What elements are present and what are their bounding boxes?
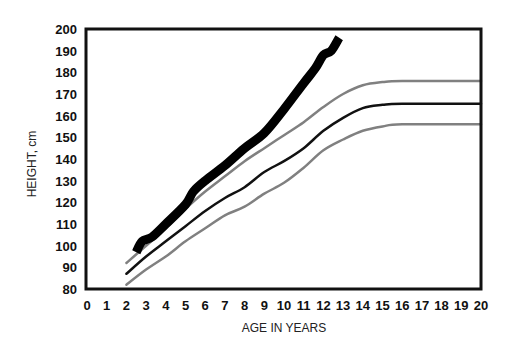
y-tick-label: 80 [63,282,77,297]
series-lines [126,38,481,285]
y-tick-label: 180 [55,65,77,80]
x-tick-label: 20 [474,298,488,313]
x-tick-label: 18 [434,298,448,313]
y-tick-label: 160 [55,109,77,124]
x-tick-label: 0 [83,298,90,313]
x-tick-label: 1 [103,298,110,313]
y-tick-label: 110 [56,217,77,232]
y-tick-label: 120 [55,195,77,210]
series-line-1 [126,104,481,274]
growth-chart: 8090100110120130140150160170180190200 01… [0,0,506,353]
x-tick-label: 5 [182,298,189,313]
y-tick-label: 190 [55,44,77,59]
x-tick-label: 19 [454,298,468,313]
x-tick-label: 9 [261,298,268,313]
y-tick-label: 150 [55,130,77,145]
y-tick-label: 90 [63,260,77,275]
y-tick-label: 130 [55,174,77,189]
plot-frame [86,29,481,289]
series-line-0 [126,81,481,263]
x-tick-label: 7 [221,298,228,313]
x-tick-label: 3 [142,298,149,313]
y-tick-label: 140 [55,152,77,167]
x-tick-label: 4 [162,298,170,313]
x-tick-label: 16 [395,298,409,313]
x-tick-label: 6 [202,298,209,313]
x-tick-label: 11 [297,298,311,313]
y-axis-ticks: 8090100110120130140150160170180190200 [55,22,77,297]
y-tick-label: 170 [55,87,77,102]
x-tick-label: 17 [415,298,429,313]
x-tick-label: 8 [241,298,248,313]
x-tick-label: 14 [356,298,371,313]
x-tick-label: 12 [316,298,330,313]
x-tick-label: 10 [277,298,291,313]
x-axis-ticks: 01234567891011121314151617181920 [83,298,488,313]
y-tick-label: 200 [55,22,77,37]
x-tick-label: 15 [375,298,389,313]
x-tick-label: 2 [123,298,130,313]
y-tick-label: 100 [55,239,77,254]
y-axis-label: HEIGHT, cm [25,131,39,198]
x-tick-label: 13 [336,298,350,313]
x-axis-label: AGE IN YEARS [242,321,326,335]
